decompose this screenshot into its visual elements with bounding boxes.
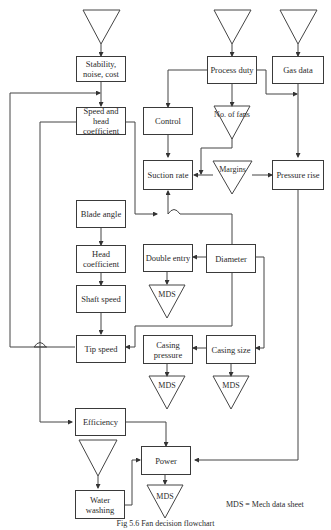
node-gas-data: Gas data (272, 56, 324, 84)
mds-label-power: MDS (147, 492, 183, 501)
node-casing-size: Casing size (206, 335, 256, 364)
node-margins: Margins (213, 165, 252, 174)
input-triangle-stability (83, 10, 120, 44)
node-head-coefficient: Head coefficient (76, 245, 126, 273)
mds-label-casing-pressure: MDS (149, 381, 185, 390)
node-power: Power (141, 446, 191, 475)
mds-label-double-entry: MDS (149, 290, 185, 299)
node-speed-head-coefficient: Speed and head coefficient (76, 107, 126, 135)
node-pressure-rise: Pressure rise (272, 160, 324, 190)
input-triangle-process (214, 10, 251, 44)
mds-label-casing-size: MDS (213, 381, 249, 390)
node-efficiency: Efficiency (75, 408, 126, 436)
triangle-mds-power (147, 485, 183, 518)
node-double-entry: Double entry (143, 244, 193, 272)
node-suction-rate: Suction rate (143, 160, 193, 190)
input-triangle-gas (280, 10, 317, 44)
node-blade-angle: Blade angle (76, 200, 126, 228)
node-control: Control (143, 107, 193, 135)
input-triangle-water (79, 440, 117, 476)
node-shaft-speed: Shaft speed (76, 285, 126, 313)
node-casing-pressure: Casing pressure (143, 335, 193, 364)
figure-caption: Fig 5.6 Fan decision flowchart (0, 519, 331, 528)
legend: MDS = Mech data sheet (226, 500, 304, 509)
node-diameter: Diameter (206, 244, 256, 273)
node-stability: Stability, noise, cost (76, 56, 126, 82)
node-process-duty: Process duty (207, 56, 257, 84)
node-tip-speed: Tip speed (76, 335, 126, 363)
node-water-washing: Water washing (75, 490, 125, 519)
node-no-of-fans: No. of fans (214, 110, 250, 119)
